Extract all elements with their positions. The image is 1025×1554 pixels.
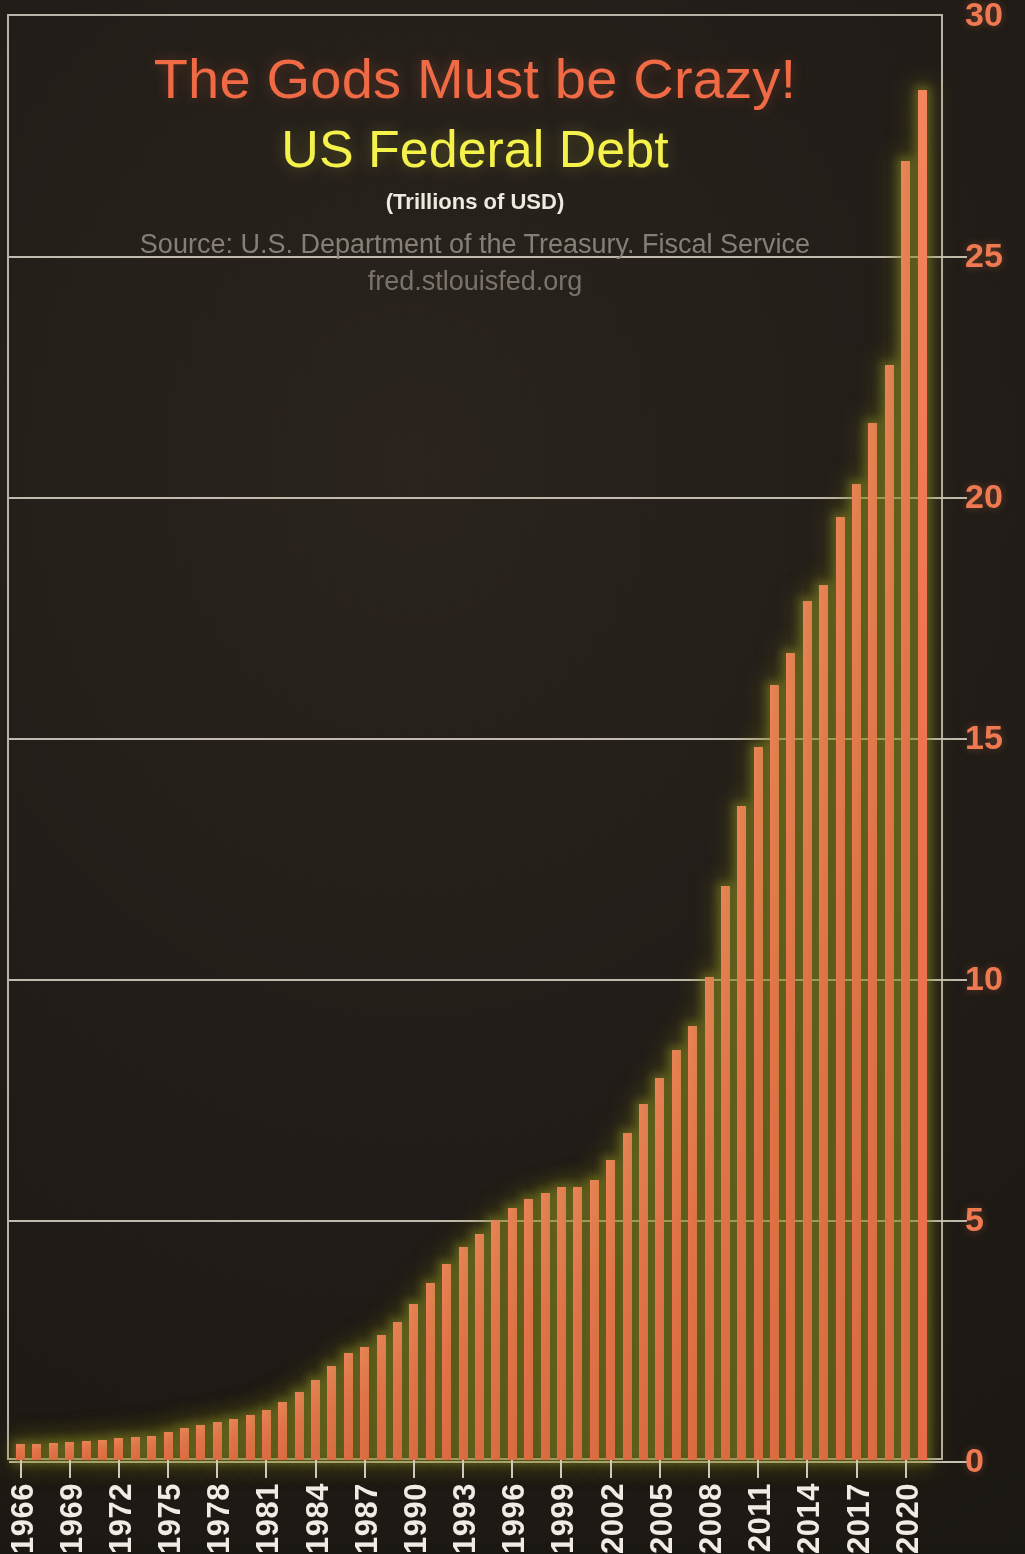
- bar-2021: [918, 90, 927, 1460]
- y-axis-tick-15: 15: [965, 718, 1003, 757]
- bar-1967: [32, 1444, 41, 1460]
- bar-1999: [557, 1187, 566, 1460]
- gridline-0: [9, 1461, 967, 1463]
- bar-2020: [901, 161, 910, 1460]
- bar-1974: [147, 1436, 156, 1460]
- bar-1997: [524, 1199, 533, 1460]
- y-axis-tick-20: 20: [965, 477, 1003, 516]
- bar-1990: [409, 1304, 418, 1460]
- x-axis-tick-mark-1969: [69, 1460, 71, 1478]
- bar-2008: [705, 977, 714, 1460]
- x-axis-tick-mark-2020: [905, 1460, 907, 1478]
- y-axis-tick-25: 25: [965, 236, 1003, 275]
- bar-1996: [508, 1208, 517, 1460]
- x-axis-tick-1987: 1987: [349, 1483, 385, 1554]
- bar-2018: [868, 423, 877, 1460]
- x-axis-tick-mark-2008: [708, 1460, 710, 1478]
- bar-series: [7, 97, 943, 1460]
- bar-1994: [475, 1234, 484, 1460]
- x-axis-tick-mark-1978: [216, 1460, 218, 1478]
- x-axis-tick-mark-1990: [413, 1460, 415, 1478]
- x-axis-tick-1972: 1972: [103, 1483, 139, 1554]
- bar-2019: [885, 365, 894, 1460]
- bar-1976: [180, 1428, 189, 1460]
- x-axis-tick-mark-1972: [118, 1460, 120, 1478]
- bar-1978: [213, 1422, 222, 1460]
- x-axis-tick-2020: 2020: [890, 1483, 926, 1554]
- bar-1972: [114, 1438, 123, 1460]
- x-axis-tick-1981: 1981: [250, 1483, 286, 1554]
- x-axis-tick-mark-2011: [757, 1460, 759, 1478]
- x-axis-tick-mark-1975: [167, 1460, 169, 1478]
- x-axis-tick-mark-1996: [511, 1460, 513, 1478]
- bar-1985: [327, 1366, 336, 1460]
- bar-1984: [311, 1380, 320, 1460]
- x-axis-tick-1975: 1975: [152, 1483, 188, 1554]
- bar-1969: [65, 1442, 74, 1460]
- bar-2014: [803, 601, 812, 1460]
- bar-1987: [360, 1347, 369, 1460]
- x-axis-tick-1966: 1966: [5, 1483, 41, 1554]
- bar-1980: [246, 1415, 255, 1460]
- bar-1992: [442, 1264, 451, 1460]
- bar-1986: [344, 1353, 353, 1460]
- y-axis-tick-30: 30: [965, 0, 1003, 34]
- bar-1998: [541, 1193, 550, 1460]
- x-axis-tick-1984: 1984: [300, 1483, 336, 1554]
- bar-2010: [737, 806, 746, 1460]
- bar-1977: [196, 1425, 205, 1460]
- x-axis-tick-mark-2017: [856, 1460, 858, 1478]
- x-axis-tick-mark-1966: [20, 1460, 22, 1478]
- x-axis-tick-2014: 2014: [791, 1483, 827, 1554]
- x-axis-tick-1990: 1990: [398, 1483, 434, 1554]
- bar-2015: [819, 585, 828, 1460]
- x-axis-tick-1996: 1996: [496, 1483, 532, 1554]
- bar-1975: [164, 1432, 173, 1460]
- x-axis-tick-mark-1981: [265, 1460, 267, 1478]
- bar-2016: [836, 517, 845, 1460]
- bar-1973: [131, 1437, 140, 1460]
- bar-2002: [606, 1160, 615, 1460]
- x-axis-tick-mark-2014: [806, 1460, 808, 1478]
- bar-2013: [786, 653, 795, 1460]
- bar-1993: [459, 1247, 468, 1460]
- x-axis-tick-mark-2005: [659, 1460, 661, 1478]
- bar-2003: [623, 1133, 632, 1460]
- x-axis-tick-1993: 1993: [447, 1483, 483, 1554]
- x-axis-tick-1999: 1999: [545, 1483, 581, 1554]
- x-axis-tick-mark-1984: [315, 1460, 317, 1478]
- bar-2011: [754, 747, 763, 1460]
- bar-1982: [278, 1402, 287, 1460]
- x-axis-tick-mark-2002: [610, 1460, 612, 1478]
- x-axis-tick-2002: 2002: [595, 1483, 631, 1554]
- x-axis-tick-2008: 2008: [693, 1483, 729, 1554]
- x-axis-tick-mark-1999: [560, 1460, 562, 1478]
- bar-2017: [852, 484, 861, 1460]
- bar-1988: [377, 1335, 386, 1460]
- x-axis-tick-2017: 2017: [841, 1483, 877, 1554]
- bar-2007: [688, 1026, 697, 1460]
- x-axis-tick-2011: 2011: [742, 1483, 778, 1552]
- x-axis-tick-2005: 2005: [644, 1483, 680, 1554]
- x-axis-tick-mark-1987: [364, 1460, 366, 1478]
- y-axis-tick-5: 5: [965, 1200, 984, 1239]
- bar-1991: [426, 1283, 435, 1460]
- bar-2006: [672, 1050, 681, 1460]
- x-axis-tick-mark-1993: [462, 1460, 464, 1478]
- x-axis-tick-1978: 1978: [201, 1483, 237, 1554]
- bar-2009: [721, 886, 730, 1460]
- bar-2001: [590, 1180, 599, 1460]
- bar-1981: [262, 1410, 271, 1460]
- bar-1966: [16, 1444, 25, 1460]
- bar-1983: [295, 1392, 304, 1460]
- y-axis-tick-10: 10: [965, 959, 1003, 998]
- bar-1970: [82, 1441, 91, 1460]
- x-axis-tick-1969: 1969: [54, 1483, 90, 1554]
- bar-2004: [639, 1104, 648, 1460]
- bar-1971: [98, 1440, 107, 1460]
- bar-1995: [491, 1220, 500, 1460]
- y-axis-tick-0: 0: [965, 1441, 984, 1480]
- bar-1979: [229, 1419, 238, 1460]
- bar-1989: [393, 1322, 402, 1460]
- bar-2005: [655, 1078, 664, 1460]
